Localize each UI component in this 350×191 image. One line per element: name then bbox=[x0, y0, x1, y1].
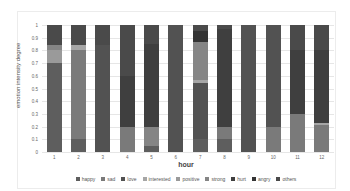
x-tick-label: 7 bbox=[190, 155, 210, 160]
bar-segment-strong bbox=[193, 42, 208, 80]
legend-item-sad: sad bbox=[101, 176, 115, 182]
bar-hour-10 bbox=[266, 25, 281, 152]
x-tick-label: 12 bbox=[312, 155, 332, 160]
bar-segment-hurt bbox=[290, 50, 305, 114]
bar-hour-6 bbox=[168, 25, 183, 152]
bar-segment-sad bbox=[266, 127, 281, 152]
bar-segment-others bbox=[120, 25, 135, 76]
bar-segment-sad bbox=[314, 125, 329, 152]
legend-item-others: others bbox=[276, 176, 296, 182]
y-tick-label: 1 bbox=[26, 23, 38, 28]
bar-segment-others bbox=[47, 25, 62, 45]
legend-label: love bbox=[127, 176, 136, 182]
bar-segment-happy bbox=[71, 139, 86, 152]
y-tick-label: 0.7 bbox=[26, 61, 38, 66]
bar-segment-hurt bbox=[144, 44, 159, 127]
legend-item-love: love bbox=[121, 176, 136, 182]
y-axis-label: emotion intensity degree bbox=[15, 68, 21, 108]
y-tick-label: 0.3 bbox=[26, 111, 38, 116]
bar-segment-others bbox=[290, 25, 305, 50]
x-tick-label: 5 bbox=[142, 155, 162, 160]
legend-swatch bbox=[76, 177, 80, 181]
legend: happysadloveinterestedpositivestronghurt… bbox=[0, 176, 350, 182]
legend-item-interested: interested bbox=[143, 176, 171, 182]
bar-segment-sad bbox=[290, 114, 305, 152]
bar-hour-2 bbox=[71, 25, 86, 152]
x-axis-label: hour bbox=[0, 161, 350, 168]
legend-swatch bbox=[143, 177, 147, 181]
bar-segment-happy bbox=[47, 63, 62, 152]
bar-segment-others bbox=[144, 25, 159, 44]
bar-segment-love bbox=[193, 83, 208, 139]
bar-hour-1 bbox=[47, 25, 62, 152]
plot-area bbox=[42, 25, 334, 152]
bar-segment-strong bbox=[144, 127, 159, 146]
legend-label: others bbox=[282, 176, 296, 182]
legend-label: strong bbox=[211, 176, 225, 182]
y-tick-label: 0.8 bbox=[26, 48, 38, 53]
y-tick-label: 0.4 bbox=[26, 99, 38, 104]
x-tick-label: 3 bbox=[93, 155, 113, 160]
x-tick-label: 11 bbox=[288, 155, 308, 160]
bar-hour-7 bbox=[193, 25, 208, 152]
bar-segment-love bbox=[168, 25, 183, 152]
legend-swatch bbox=[252, 177, 256, 181]
y-tick-label: 0.9 bbox=[26, 35, 38, 40]
legend-item-strong: strong bbox=[205, 176, 225, 182]
bar-segment-love bbox=[266, 25, 281, 127]
legend-label: happy bbox=[82, 176, 96, 182]
legend-label: hurt bbox=[237, 176, 246, 182]
x-tick-label: 4 bbox=[117, 155, 137, 160]
bar-hour-4 bbox=[120, 25, 135, 152]
legend-item-positive: positive bbox=[176, 176, 199, 182]
y-tick-label: 0 bbox=[26, 150, 38, 155]
bar-segment-positive bbox=[47, 50, 62, 63]
bar-segment-others bbox=[71, 25, 86, 45]
bar-hour-3 bbox=[95, 25, 110, 152]
bar-hour-12 bbox=[314, 25, 329, 152]
bar-segment-happy bbox=[217, 139, 232, 152]
bar-hour-5 bbox=[144, 25, 159, 152]
bar-segment-sad bbox=[71, 50, 86, 139]
bar-segment-others bbox=[95, 25, 110, 45]
x-tick-label: 9 bbox=[239, 155, 259, 160]
legend-label: interested bbox=[149, 176, 171, 182]
bar-segment-angry bbox=[193, 31, 208, 41]
bar-segment-happy bbox=[193, 139, 208, 152]
bar-segment-hurt bbox=[217, 29, 232, 127]
legend-label: angry bbox=[258, 176, 271, 182]
legend-swatch bbox=[176, 177, 180, 181]
bar-segment-hurt bbox=[314, 50, 329, 122]
legend-swatch bbox=[276, 177, 280, 181]
bar-segment-others bbox=[314, 25, 329, 50]
y-tick-label: 0.2 bbox=[26, 124, 38, 129]
legend-item-hurt: hurt bbox=[231, 176, 246, 182]
bar-hour-11 bbox=[290, 25, 305, 152]
legend-swatch bbox=[205, 177, 209, 181]
bar-hour-9 bbox=[241, 25, 256, 152]
x-tick-label: 2 bbox=[69, 155, 89, 160]
y-tick-label: 0.5 bbox=[26, 86, 38, 91]
bar-segment-love bbox=[241, 25, 256, 152]
x-tick-label: 10 bbox=[263, 155, 283, 160]
x-tick-label: 8 bbox=[215, 155, 235, 160]
gridline bbox=[42, 152, 334, 153]
bar-segment-love bbox=[95, 45, 110, 152]
legend-label: sad bbox=[107, 176, 115, 182]
legend-item-happy: happy bbox=[76, 176, 96, 182]
bar-segment-happy bbox=[144, 146, 159, 152]
legend-item-angry: angry bbox=[252, 176, 271, 182]
y-tick-label: 0.6 bbox=[26, 73, 38, 78]
legend-swatch bbox=[101, 177, 105, 181]
bar-segment-sad bbox=[120, 127, 135, 152]
x-tick-label: 1 bbox=[44, 155, 64, 160]
x-tick-label: 6 bbox=[166, 155, 186, 160]
legend-label: positive bbox=[182, 176, 199, 182]
bar-segment-sad bbox=[217, 127, 232, 140]
bar-hour-8 bbox=[217, 25, 232, 152]
legend-swatch bbox=[121, 177, 125, 181]
legend-swatch bbox=[231, 177, 235, 181]
y-tick-label: 0.1 bbox=[26, 137, 38, 142]
bar-segment-hurt bbox=[120, 76, 135, 127]
